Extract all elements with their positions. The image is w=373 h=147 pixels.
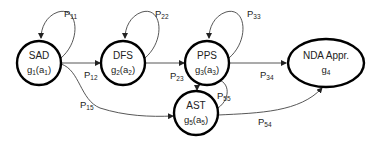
label-p55: P55 [217,90,231,102]
edge-p54-ast-to-nda [218,88,322,115]
label-p34: P34 [260,69,274,81]
svg-text:g5(a5): g5(a5) [184,114,208,126]
node-dfs: DFS g2(a2) [101,41,145,85]
svg-text:g2(a2): g2(a2) [111,64,135,76]
label-p12: P12 [84,69,98,81]
label-p22: P22 [155,8,169,20]
svg-text:g1(a1): g1(a1) [27,64,51,76]
node-ast: AST g5(a5) [174,91,218,135]
label-p11: P11 [64,8,77,20]
label-p23: P23 [170,70,184,82]
node-pps: PPS g3(a3) [185,41,229,85]
node-nda-approval: NDA Appr. g4 [288,39,364,87]
label-p33: P33 [247,8,261,20]
svg-text:DFS: DFS [113,50,133,61]
svg-text:AST: AST [186,100,205,111]
svg-text:SAD: SAD [29,50,50,61]
state-transition-diagram: SAD g1(a1) DFS g2(a2) PPS g3(a3) NDA App… [0,0,373,147]
label-p15: P15 [80,99,94,111]
label-p54: P54 [258,116,272,128]
svg-text:g3(a3): g3(a3) [195,64,219,76]
svg-text:NDA Appr.: NDA Appr. [303,50,349,61]
node-sad: SAD g1(a1) [17,41,61,85]
svg-text:PPS: PPS [197,50,217,61]
